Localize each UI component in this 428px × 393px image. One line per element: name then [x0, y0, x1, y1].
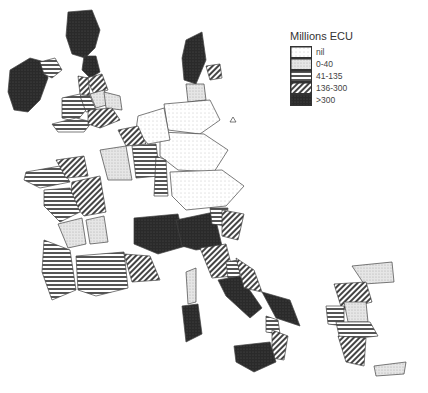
- region-sardinia: [182, 304, 202, 342]
- region-provence: [124, 254, 160, 282]
- region-veneto: [222, 210, 244, 240]
- small-island-triangle: [230, 117, 236, 122]
- legend-label: nil: [316, 47, 325, 57]
- region-scotland: [66, 10, 100, 58]
- region-central-germany: [160, 132, 228, 172]
- legend-label: >300: [316, 95, 335, 105]
- legend-swatch-c1: [290, 58, 312, 70]
- legend-item-nil: nil: [290, 46, 353, 58]
- legend-item-c1: 0-40: [290, 58, 353, 70]
- legend-swatch-c2: [290, 70, 312, 82]
- region-greece-thessaly: [344, 302, 368, 322]
- legend-label: 136-300: [316, 83, 347, 93]
- region-schleswig-holstein: [186, 84, 206, 102]
- region-greece-thrace: [352, 262, 394, 284]
- region-sicily: [234, 342, 276, 372]
- region-south-west-england: [52, 118, 92, 132]
- region-greece-peloponnese: [338, 336, 366, 366]
- region-danish-islands: [206, 64, 222, 80]
- region-ile-de-france: [100, 146, 132, 180]
- region-aquitaine: [42, 240, 76, 300]
- region-south-east-england: [88, 108, 120, 128]
- eu-regional-map: [0, 0, 428, 393]
- legend-swatch-nil: [290, 46, 312, 58]
- legend-swatch-c3: [290, 82, 312, 94]
- legend-swatch-c4: [290, 94, 312, 106]
- region-corse: [186, 268, 196, 304]
- legend-item-c3: 136-300: [290, 82, 353, 94]
- region-south-germany: [170, 170, 244, 210]
- region-midi-pyrenees: [76, 252, 128, 296]
- region-north-england: [82, 56, 100, 78]
- region-poitou-charentes: [58, 218, 86, 248]
- region-north-germany: [164, 100, 220, 134]
- legend: Millions ECU nil0-4041-135136-300>300: [290, 30, 353, 106]
- region-limousin: [86, 216, 108, 244]
- legend-item-c4: >300: [290, 94, 353, 106]
- region-east-anglia: [104, 92, 122, 110]
- region-denmark: [182, 32, 206, 84]
- legend-label: 0-40: [316, 59, 333, 69]
- legend-title: Millions ECU: [290, 30, 353, 42]
- legend-item-c2: 41-135: [290, 70, 353, 82]
- region-crete: [374, 362, 406, 376]
- region-alsace: [154, 156, 168, 196]
- region-north-west-england: [78, 76, 90, 96]
- legend-label: 41-135: [316, 71, 342, 81]
